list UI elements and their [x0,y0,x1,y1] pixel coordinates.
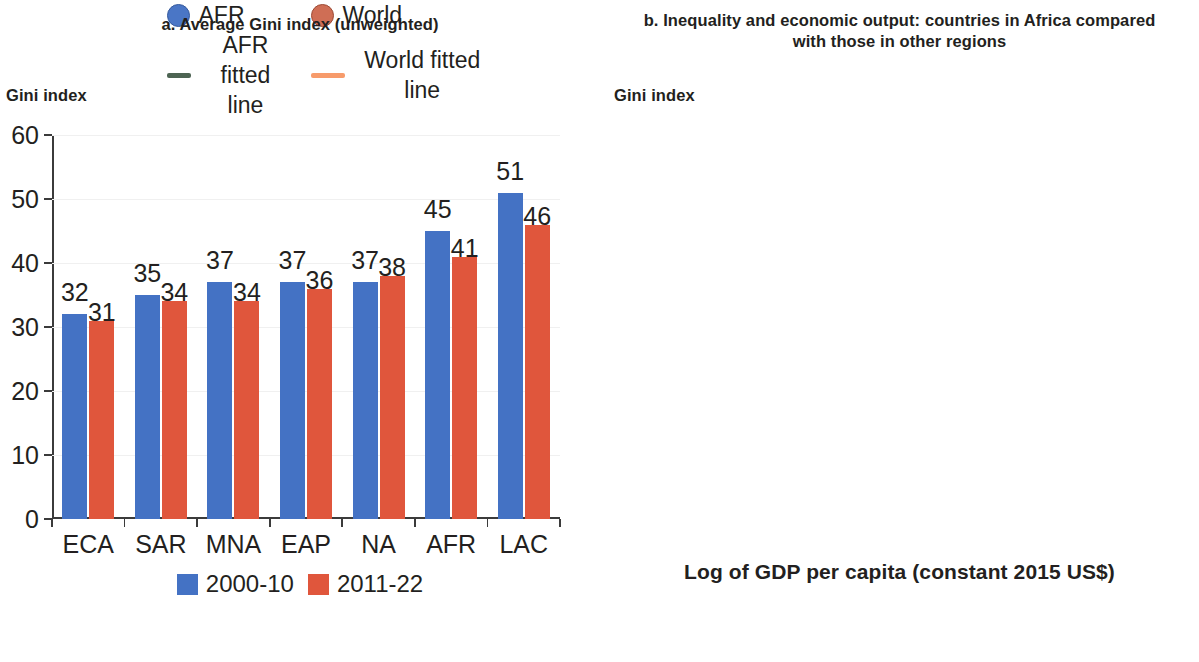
legend-label: 2011-22 [337,570,423,598]
x-category-label-na: NA [361,532,396,557]
legend-label: 2000-10 [206,570,294,598]
panel-a-x-axis [52,517,560,519]
panel-a-plot-area: 0102030405060 ECASARMNAEAPNAAFRLAC 32313… [52,135,560,519]
bar-mna-2011-22 [234,301,259,519]
bar-value-label: 36 [306,268,334,293]
bar-value-label: 35 [133,261,161,286]
x-category-label-eap: EAP [281,532,331,557]
bar-sar-2000-10 [135,295,160,519]
x-tick-mark [124,519,126,527]
bar-value-label: 37 [351,248,379,273]
bar-value-label: 45 [424,197,452,222]
gridline [52,327,560,328]
y-tick-label: 0 [25,507,39,532]
x-tick-mark [341,519,343,527]
x-category-label-mna: MNA [206,532,262,557]
legend-item-2011-22[interactable]: 2011-22 [308,570,423,598]
y-tick-label: 30 [11,315,39,340]
panel-a-legend: 2000-102011-22 [0,570,600,598]
figure: a. Average Gini index (unweighted) Gini … [0,0,1199,662]
bar-mna-2000-10 [207,282,232,519]
bar-value-label: 38 [378,255,406,280]
y-tick-label: 20 [11,379,39,404]
bar-afr-2011-22 [452,257,477,519]
y-tick-mark [44,262,52,264]
y-tick-label: 50 [11,187,39,212]
x-tick-mark [51,519,53,527]
bar-value-label: 41 [451,236,479,261]
bar-value-label: 37 [279,248,307,273]
y-tick-mark [44,390,52,392]
y-tick-label: 60 [11,123,39,148]
bar-sar-2011-22 [162,301,187,519]
gridline [52,135,560,136]
bar-eap-2000-10 [280,282,305,519]
y-tick-label: 10 [11,443,39,468]
x-tick-mark [414,519,416,527]
y-tick-mark [44,198,52,200]
panel-a-title: a. Average Gini index (unweighted) [0,14,600,35]
y-tick-mark [44,326,52,328]
y-tick-label: 40 [11,251,39,276]
bar-value-label: 34 [233,280,261,305]
x-tick-mark [559,519,561,527]
panel-b-y-axis-label: Gini index [614,86,695,105]
y-tick-mark [44,134,52,136]
bar-lac-2000-10 [498,193,523,519]
legend-swatch-icon [308,574,329,595]
bar-value-label: 37 [206,248,234,273]
gridline [52,455,560,456]
bar-value-label: 34 [160,280,188,305]
x-category-label-afr: AFR [426,532,476,557]
legend-swatch-icon [177,574,198,595]
x-category-label-sar: SAR [135,532,186,557]
gridline [52,391,560,392]
panel-b-title: b. Inequality and economic output: count… [600,10,1199,52]
bar-value-label: 51 [496,159,524,184]
x-tick-mark [196,519,198,527]
x-tick-mark [487,519,489,527]
bar-lac-2011-22 [525,225,550,519]
x-category-label-lac: LAC [499,532,548,557]
panel-a-y-axis-label: Gini index [6,86,87,105]
bar-value-label: 32 [61,280,89,305]
x-category-label-eca: ECA [63,532,114,557]
legend-item-2000-10[interactable]: 2000-10 [177,570,294,598]
bar-eca-2000-10 [62,314,87,519]
bar-na-2000-10 [353,282,378,519]
bar-value-label: 46 [523,204,551,229]
bar-value-label: 31 [88,300,116,325]
bar-afr-2000-10 [425,231,450,519]
bar-eap-2011-22 [307,289,332,519]
panel-b-x-axis-label: Log of GDP per capita (constant 2015 US$… [600,560,1199,584]
x-tick-mark [269,519,271,527]
y-tick-mark [44,454,52,456]
bar-na-2011-22 [380,276,405,519]
gridline [52,199,560,200]
bar-eca-2011-22 [89,321,114,519]
panel-a-bar-chart: a. Average Gini index (unweighted) Gini … [0,0,600,662]
